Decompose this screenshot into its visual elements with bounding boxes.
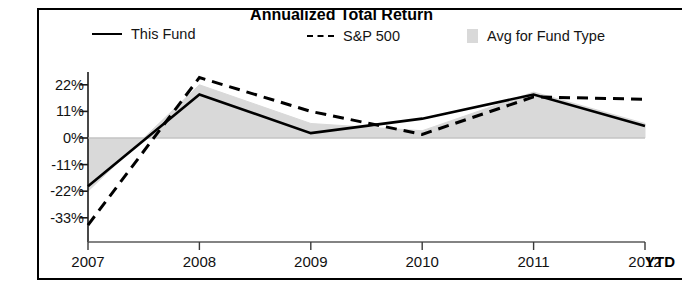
- x-axis-tick-label: 2009: [276, 253, 346, 270]
- x-axis-ytd-label: YTD: [645, 253, 675, 270]
- x-axis-tick-label: 2011: [499, 253, 569, 270]
- plot-svg: [0, 0, 683, 295]
- x-axis-tick-label: 2010: [387, 253, 457, 270]
- y-axis-tick-label: -33%: [28, 210, 84, 226]
- x-axis-tick-label: 2008: [164, 253, 234, 270]
- y-axis-tick-label: 11%: [28, 103, 84, 119]
- y-axis-tick-label: -11%: [28, 157, 84, 173]
- y-axis-tick-label: -22%: [28, 183, 84, 199]
- chart-figure: Annualized Total Return This Fund S&P 50…: [0, 0, 683, 295]
- y-axis-tick-label: 22%: [28, 77, 84, 93]
- x-axis-tick-label: 2007: [53, 253, 123, 270]
- plot-area: 22%11%0%-11%-22%-33% 2007200820092010201…: [0, 0, 683, 295]
- y-axis-tick-label: 0%: [28, 130, 84, 146]
